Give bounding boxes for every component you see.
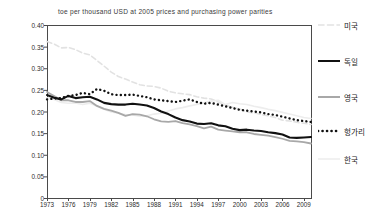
x-axis-tick-label: 1979: [83, 201, 97, 208]
y-axis-tick-labels: 0.400.350.300.250.200.150.100.050: [22, 0, 44, 220]
legend-swatch-icon: [318, 93, 340, 102]
x-axis-tick-label: 1985: [126, 201, 140, 208]
x-axis-tick-label: 2000: [233, 201, 247, 208]
x-axis-tick-label: 1994: [190, 201, 204, 208]
legend-item[interactable]: 독일: [318, 56, 358, 67]
x-axis-tick-label: 2006: [275, 201, 289, 208]
legend-label: 헝가리: [344, 126, 365, 137]
legend-label: 독일: [344, 56, 358, 67]
legend-item[interactable]: 미국: [318, 20, 358, 31]
x-axis-tick-label: 1973: [40, 201, 54, 208]
x-axis-tick-label: 1976: [61, 201, 75, 208]
chart-legend: 미국독일영국헝가리한국: [318, 0, 378, 220]
legend-swatch-icon: [318, 127, 340, 136]
series-line-1: [47, 41, 311, 124]
legend-label: 영국: [344, 92, 358, 103]
y-axis-tick-label: 0.10: [24, 151, 44, 158]
chart-title: toe per thousand USD at 2005 prices and …: [58, 8, 273, 15]
x-axis-tick-label: 1991: [168, 201, 182, 208]
legend-swatch-icon: [318, 57, 340, 66]
legend-label: 미국: [344, 20, 358, 31]
legend-swatch-icon: [318, 21, 340, 30]
legend-item[interactable]: 영국: [318, 92, 358, 103]
x-axis-tick-label: 1997: [211, 201, 225, 208]
y-axis-tick-label: 0.30: [24, 65, 44, 72]
y-axis-tick-label: 0.15: [24, 130, 44, 137]
y-axis-tick-label: 0.35: [24, 43, 44, 50]
legend-label: 한국: [344, 154, 358, 165]
x-axis-tick-label: 2003: [254, 201, 268, 208]
x-axis-tick-label: 1982: [104, 201, 118, 208]
x-axis-tick-label: 2009: [297, 201, 311, 208]
x-axis-tick-label: 1988: [147, 201, 161, 208]
y-axis-tick-label: 0.25: [24, 86, 44, 93]
y-axis-tick-label: 0.05: [24, 173, 44, 180]
line-chart: toe per thousand USD at 2005 prices and …: [0, 0, 378, 220]
y-axis-tick-label: 0.20: [24, 108, 44, 115]
legend-item[interactable]: 한국: [318, 154, 358, 165]
legend-item[interactable]: 헝가리: [318, 126, 365, 137]
legend-swatch-icon: [318, 155, 340, 164]
plot-frame: [48, 26, 312, 199]
y-axis-tick-label: 0.40: [24, 22, 44, 29]
